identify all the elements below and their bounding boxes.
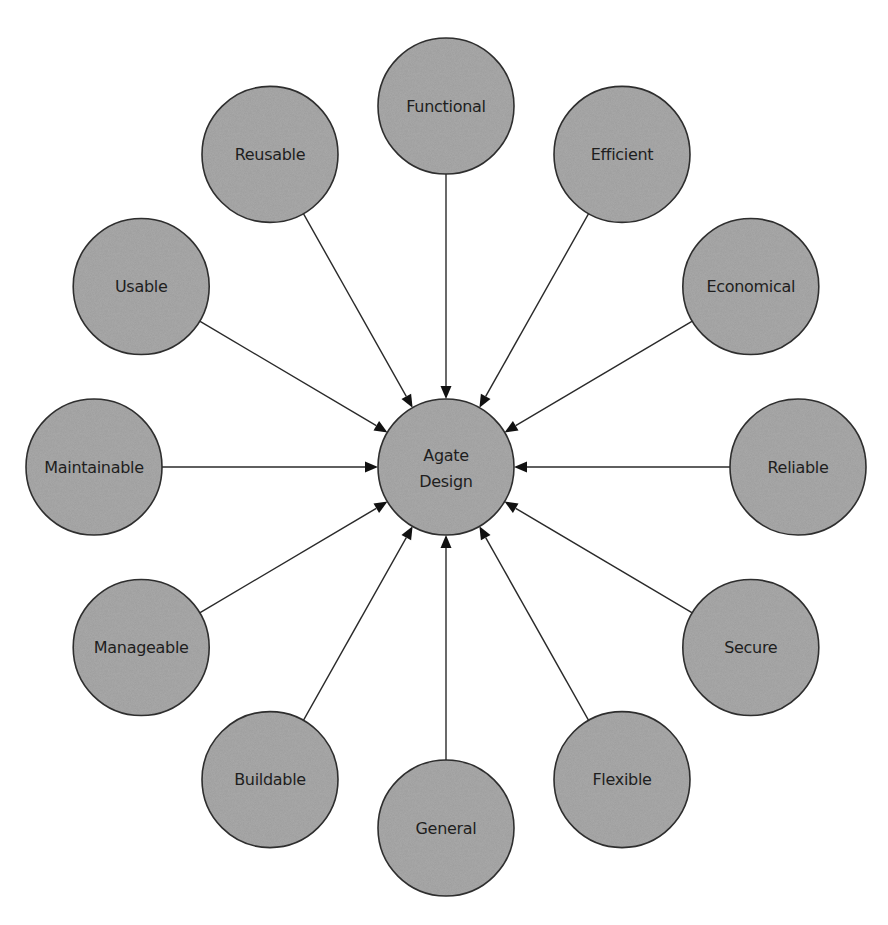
node-label-economical: Economical <box>706 277 795 296</box>
node-reusable: Reusable <box>202 86 338 222</box>
edge-line <box>516 508 693 613</box>
arrowhead-icon <box>514 462 527 473</box>
agate-design-diagram: FunctionalEfficientEconomicalReliableSec… <box>0 0 888 925</box>
arrowhead-icon <box>402 526 413 540</box>
edge-line <box>303 214 406 397</box>
node-label-reliable: Reliable <box>768 458 829 477</box>
edge-general-to-agate-design <box>441 535 452 760</box>
edge-maintainable-to-agate-design <box>162 462 378 473</box>
edge-flexible-to-agate-design <box>479 526 588 720</box>
node-economical: Economical <box>683 219 819 355</box>
node-label-maintainable: Maintainable <box>44 458 144 477</box>
edge-efficient-to-agate-design <box>479 214 588 408</box>
node-label-usable: Usable <box>115 277 168 296</box>
edge-reliable-to-agate-design <box>514 462 730 473</box>
node-buildable: Buildable <box>202 712 338 848</box>
arrowhead-icon <box>402 394 413 408</box>
node-functional: Functional <box>378 38 514 174</box>
node-label-general: General <box>416 819 477 838</box>
edge-line <box>200 321 377 426</box>
node-label-buildable: Buildable <box>234 770 306 789</box>
arrowhead-icon <box>374 502 388 513</box>
edge-functional-to-agate-design <box>441 174 452 399</box>
node-label-functional: Functional <box>406 97 485 116</box>
arrowhead-icon <box>505 502 519 513</box>
node-label-flexible: Flexible <box>592 770 651 789</box>
node-label-efficient: Efficient <box>591 145 654 164</box>
edge-line <box>486 214 589 397</box>
edge-reusable-to-agate-design <box>303 214 412 408</box>
edge-usable-to-agate-design <box>200 321 388 432</box>
node-label-reusable: Reusable <box>235 145 306 164</box>
node-maintainable: Maintainable <box>26 399 162 535</box>
arrowhead-icon <box>505 421 519 432</box>
arrowhead-icon <box>441 386 452 399</box>
center-node-label-line-1: Agate <box>423 446 469 465</box>
edge-line <box>516 321 693 426</box>
arrowhead-icon <box>441 535 452 548</box>
edge-line <box>303 538 406 721</box>
node-flexible: Flexible <box>554 712 690 848</box>
edge-line <box>486 538 589 721</box>
arrowhead-icon <box>479 394 490 408</box>
node-general: General <box>378 760 514 896</box>
edge-economical-to-agate-design <box>505 321 693 432</box>
arrowhead-icon <box>479 526 490 540</box>
edge-manageable-to-agate-design <box>200 502 388 613</box>
arrowhead-icon <box>374 421 388 432</box>
node-label-manageable: Manageable <box>94 638 189 657</box>
center-node-agate-design: Agate Design <box>378 399 514 535</box>
node-usable: Usable <box>73 219 209 355</box>
edge-buildable-to-agate-design <box>303 526 412 720</box>
edge-line <box>200 508 377 613</box>
node-efficient: Efficient <box>554 86 690 222</box>
node-manageable: Manageable <box>73 580 209 716</box>
center-node-circle <box>378 399 514 535</box>
node-label-secure: Secure <box>724 638 777 657</box>
arrowhead-icon <box>365 462 378 473</box>
node-secure: Secure <box>683 580 819 716</box>
node-reliable: Reliable <box>730 399 866 535</box>
center-node-label-line-2: Design <box>419 472 472 491</box>
edge-secure-to-agate-design <box>505 502 693 613</box>
